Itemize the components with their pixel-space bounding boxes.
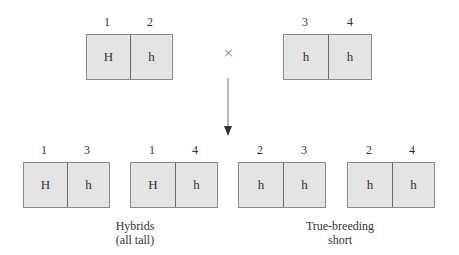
caption-line: Hybrids: [90, 219, 180, 233]
caption-line: True-breeding: [290, 219, 390, 233]
caption-line: (all tall): [90, 233, 180, 247]
down-arrow-icon: [222, 76, 234, 138]
allele: h: [284, 35, 328, 79]
chromosome-label: 2: [250, 143, 270, 158]
allele: h: [130, 35, 172, 79]
chromosome-pair-box: H h: [86, 34, 173, 80]
chromosome-label: 3: [295, 15, 315, 30]
allele: H: [131, 163, 175, 207]
chromosome-label: 2: [359, 143, 379, 158]
allele: h: [348, 163, 392, 207]
chromosome-label: 3: [294, 143, 314, 158]
caption-line: short: [290, 233, 390, 247]
chromosome-pair-box: h h: [347, 162, 435, 208]
chromosome-label: 4: [185, 143, 205, 158]
allele: h: [283, 163, 325, 207]
allele: h: [328, 35, 371, 79]
chromosome-label: 2: [140, 15, 160, 30]
chromosome-pair-box: h h: [283, 34, 372, 80]
chromosome-pair-box: H h: [130, 162, 218, 208]
allele: h: [175, 163, 217, 207]
allele: h: [239, 163, 283, 207]
chromosome-label: 1: [34, 143, 54, 158]
allele: h: [67, 163, 109, 207]
chromosome-label: 4: [340, 15, 360, 30]
chromosome-pair-box: H h: [23, 162, 110, 208]
cross-symbol: ×: [223, 45, 234, 60]
chromosome-label: 4: [402, 143, 422, 158]
allele: h: [392, 163, 434, 207]
allele: H: [24, 163, 67, 207]
chromosome-label: 1: [142, 143, 162, 158]
caption-hybrids: Hybrids (all tall): [90, 219, 180, 247]
allele: H: [87, 35, 130, 79]
chromosome-label: 3: [77, 143, 97, 158]
chromosome-pair-box: h h: [238, 162, 326, 208]
chromosome-label: 1: [97, 15, 117, 30]
caption-true-breeding: True-breeding short: [290, 219, 390, 247]
